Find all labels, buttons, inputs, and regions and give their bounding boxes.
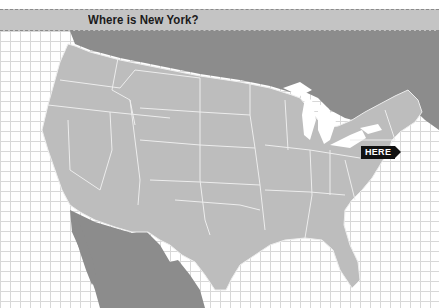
page-title: Where is New York?	[88, 12, 199, 27]
map-area: HERE	[0, 31, 439, 308]
top-margin	[0, 0, 439, 9]
us-map	[0, 31, 439, 308]
here-marker: HERE	[361, 146, 395, 159]
title-banner: Where is New York?	[0, 9, 439, 31]
